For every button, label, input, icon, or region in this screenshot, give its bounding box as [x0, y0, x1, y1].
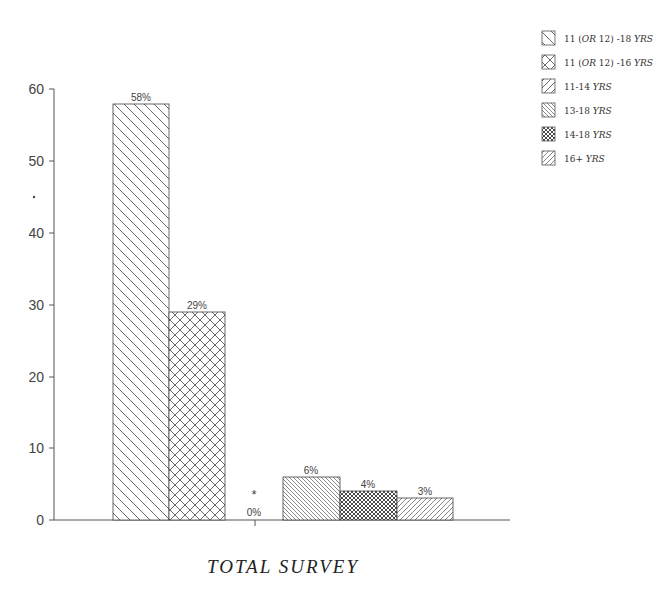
legend-label: 11 (OR 12) -18 YRS — [564, 34, 653, 44]
legend-label: 13-18 YRS — [564, 106, 612, 116]
legend-label: 11-14 YRS — [564, 82, 612, 92]
legend-swatch — [542, 79, 555, 93]
legend-item: 11 (OR 12) -16 YRS — [542, 55, 653, 69]
bar-13-18-yrs — [283, 477, 340, 520]
legend-swatch — [542, 55, 555, 69]
y-axis: 0 10 20 30 40 50 60 — [28, 81, 54, 528]
legend: 11 (OR 12) -18 YRS 11 (OR 12) -16 YRS 11… — [542, 31, 653, 165]
legend-item: 14-18 YRS — [542, 127, 612, 141]
asterisk-annotation: * — [251, 487, 256, 502]
y-tick-label: 0 — [36, 512, 44, 528]
legend-swatch — [542, 103, 555, 117]
bar-11-12-16-yrs — [169, 312, 225, 520]
y-tick-label: 20 — [28, 369, 44, 385]
legend-item: 13-18 YRS — [542, 103, 612, 117]
legend-swatch — [542, 127, 555, 141]
legend-item: 16+ YRS — [542, 151, 605, 165]
legend-item: 11 (OR 12) -18 YRS — [542, 31, 653, 45]
bar-11-12-18-yrs — [113, 104, 169, 520]
y-tick-label: 60 — [28, 81, 44, 97]
bar-value-label: 0% — [247, 507, 262, 518]
x-axis — [54, 520, 510, 526]
y-tick-label: 30 — [28, 297, 44, 313]
bar-value-label: 29% — [187, 300, 207, 311]
bar-value-label: 58% — [131, 92, 151, 103]
bar-value-label: 3% — [418, 486, 433, 497]
legend-swatch — [542, 151, 555, 165]
y-tick-label: 50 — [28, 153, 44, 169]
bar-chart: 0 10 20 30 40 50 60 58% 29% * 0% 6% 4% 3… — [0, 0, 663, 603]
bar-value-label: 6% — [304, 465, 319, 476]
stray-dot — [33, 196, 35, 198]
y-tick-label: 10 — [28, 440, 44, 456]
legend-label: 14-18 YRS — [564, 130, 612, 140]
bar-14-18-yrs — [340, 491, 397, 520]
y-tick-label: 40 — [28, 225, 44, 241]
legend-label: 11 (OR 12) -16 YRS — [564, 58, 653, 68]
legend-swatch — [542, 31, 555, 45]
legend-item: 11-14 YRS — [542, 79, 612, 93]
chart-title: TOTAL SURVEY — [207, 556, 359, 577]
bar-value-label: 4% — [361, 479, 376, 490]
bar-16-plus-yrs — [397, 498, 453, 520]
bars: 58% 29% * 0% 6% 4% 3% — [113, 92, 453, 520]
legend-label: 16+ YRS — [564, 154, 605, 164]
